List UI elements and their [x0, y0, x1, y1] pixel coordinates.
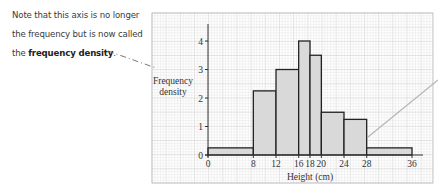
histogram-bar: [321, 112, 344, 155]
histogram-bar: [208, 148, 253, 155]
x-tick-label: 24: [339, 159, 349, 169]
x-tick-label: 16: [294, 159, 304, 169]
histogram-bar: [276, 70, 299, 156]
x-axis-label: Height (cm): [287, 172, 333, 183]
x-tick-label: 8: [251, 159, 256, 169]
histogram-bar: [299, 41, 310, 155]
y-axis-label-line-1: Frequency: [153, 76, 193, 86]
x-tick-label: 18: [305, 159, 315, 169]
x-tick-label: 12: [271, 159, 281, 169]
x-tick-label: 28: [362, 159, 372, 169]
y-tick-label: 1: [198, 122, 203, 132]
x-tick-label: 20: [317, 159, 327, 169]
y-tick-label: 3: [198, 65, 203, 75]
annotation-pointer: [108, 51, 156, 68]
y-axis-label-line-2: density: [159, 87, 187, 97]
histogram-bar: [367, 148, 412, 155]
x-tick-label: 36: [407, 159, 417, 169]
histogram-chart: 012340812161820242836 Frequency density …: [0, 0, 438, 191]
y-tick-label: 4: [198, 37, 203, 47]
y-tick-label: 2: [198, 94, 203, 104]
histogram-bar: [310, 55, 321, 155]
y-tick-label: 0: [198, 151, 203, 161]
x-tick-label: 0: [206, 159, 211, 169]
histogram-bar: [344, 119, 367, 155]
histogram-bar: [253, 91, 276, 155]
